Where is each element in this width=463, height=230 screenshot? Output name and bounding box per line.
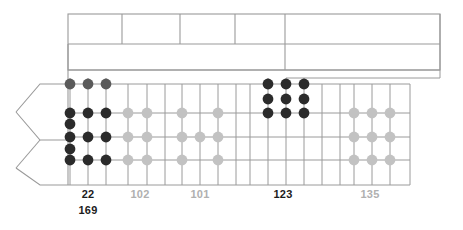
dot <box>123 108 134 119</box>
dot <box>65 155 76 166</box>
cluster-22-main <box>65 108 112 166</box>
left-bracket-upper <box>16 84 68 112</box>
dot <box>349 132 360 143</box>
dot <box>299 108 310 119</box>
dot <box>101 79 112 90</box>
dot <box>367 155 378 166</box>
dot-clusters-group <box>65 79 396 166</box>
cluster-123 <box>263 79 310 119</box>
diagram-canvas: 22 169 102 101 123 135 <box>0 0 463 230</box>
dot <box>142 132 153 143</box>
dot <box>65 144 76 155</box>
left-bracket-tail-lower <box>16 168 68 185</box>
grid-dot-diagram <box>0 0 463 230</box>
dot <box>177 132 188 143</box>
dot <box>263 108 274 119</box>
dot <box>101 155 112 166</box>
axis-label-169: 169 <box>79 204 98 216</box>
dot <box>385 108 396 119</box>
left-bracket-tail-upper <box>16 140 40 168</box>
dot <box>83 79 94 90</box>
left-bracket-group <box>16 84 68 185</box>
axis-label-135: 135 <box>361 188 380 200</box>
dot <box>281 108 292 119</box>
dot <box>349 155 360 166</box>
dot <box>65 108 76 119</box>
dot <box>281 79 292 90</box>
dot <box>213 155 224 166</box>
dot <box>213 132 224 143</box>
dot <box>177 108 188 119</box>
main-grid-group <box>68 70 440 185</box>
dot <box>299 94 310 105</box>
cluster-135 <box>349 108 396 166</box>
dot <box>101 132 112 143</box>
dot <box>213 108 224 119</box>
dot <box>83 108 94 119</box>
top-band-outer <box>68 14 440 70</box>
dot <box>367 108 378 119</box>
dot <box>142 155 153 166</box>
dot <box>367 132 378 143</box>
dot <box>195 132 206 143</box>
dot <box>123 132 134 143</box>
dot <box>65 119 76 130</box>
axis-label-22: 22 <box>82 188 95 200</box>
axis-label-123: 123 <box>274 188 293 200</box>
dot <box>177 155 188 166</box>
dot <box>385 155 396 166</box>
axis-label-101: 101 <box>191 188 210 200</box>
dot <box>349 108 360 119</box>
dot <box>299 79 310 90</box>
cluster-22-top-row <box>65 79 112 90</box>
dot <box>83 155 94 166</box>
dot <box>385 132 396 143</box>
dot <box>263 79 274 90</box>
dot <box>65 132 76 143</box>
dot <box>263 94 274 105</box>
dot <box>83 132 94 143</box>
dot <box>142 108 153 119</box>
dot <box>101 108 112 119</box>
dot <box>281 94 292 105</box>
dot <box>123 155 134 166</box>
axis-label-102: 102 <box>131 188 150 200</box>
dot <box>65 79 76 90</box>
left-bracket-lower <box>16 112 68 140</box>
